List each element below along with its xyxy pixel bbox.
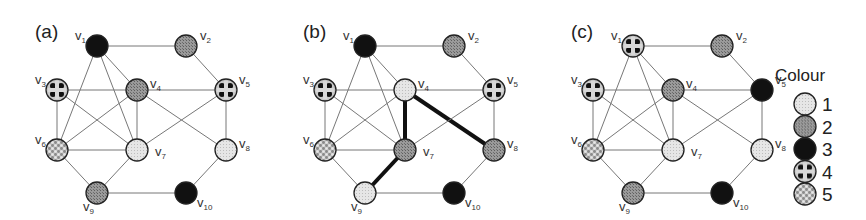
vertex-label: v4 — [418, 76, 430, 93]
vertex-label: v8 — [507, 136, 519, 153]
vertex-label: v5 — [507, 72, 519, 89]
vertex-v7 — [126, 139, 148, 161]
vertex-v4 — [126, 79, 148, 101]
vertex-label: v5 — [239, 72, 251, 89]
vertex-label: v10 — [733, 195, 749, 212]
vertex-label: v2 — [200, 28, 212, 45]
vertex-v7 — [662, 139, 684, 161]
legend-value: 5 — [822, 184, 833, 205]
panel-c: (c)v1v2v3v4v5v6v7v8v9v10 — [571, 21, 787, 216]
edges — [593, 46, 762, 193]
vertex-label: v2 — [736, 28, 748, 45]
vertex-label: v7 — [423, 144, 435, 161]
vertex-v10 — [711, 182, 733, 204]
legend-swatch-4 — [794, 161, 816, 183]
vertex-v1 — [622, 35, 644, 57]
vertex-v2 — [443, 35, 465, 57]
panel-a: (a)v1v2v3v4v5v6v7v8v9v10 — [35, 21, 251, 216]
panel-b: (b)v1v2v3v4v5v6v7v8v9v10 — [303, 21, 519, 216]
vertex-v6 — [314, 139, 336, 161]
vertex-v6 — [46, 139, 68, 161]
vertex-label: v6 — [35, 132, 47, 149]
legend-value: 4 — [822, 162, 833, 183]
vertex-v10 — [443, 182, 465, 204]
legend-value: 3 — [822, 139, 833, 160]
vertex-v3 — [314, 79, 336, 101]
edges — [57, 46, 226, 193]
legend-swatch-5 — [794, 183, 816, 205]
vertex-v5 — [751, 79, 773, 101]
vertex-label: v3 — [571, 72, 583, 89]
legend-value: 2 — [822, 117, 833, 138]
vertex-label: v3 — [303, 72, 315, 89]
panel-label: (c) — [571, 21, 593, 42]
vertex-v5 — [483, 79, 505, 101]
vertex-v6 — [582, 139, 604, 161]
vertex-v4 — [394, 79, 416, 101]
vertex-v8 — [751, 139, 773, 161]
vertex-v8 — [483, 139, 505, 161]
figure-svg: (a)v1v2v3v4v5v6v7v8v9v10(b)v1v2v3v4v5v6v… — [0, 0, 866, 220]
vertex-label: v7 — [691, 144, 703, 161]
vertex-label: v6 — [571, 132, 583, 149]
vertex-label: v1 — [611, 28, 623, 45]
vertex-v4 — [662, 79, 684, 101]
vertex-v5 — [215, 79, 237, 101]
edges — [325, 46, 494, 193]
panel-label: (b) — [303, 21, 326, 42]
vertex-label: v1 — [343, 28, 355, 45]
vertex-label: v3 — [35, 72, 47, 89]
vertex-label: v4 — [150, 76, 162, 93]
vertex-label: v10 — [197, 195, 213, 212]
vertex-v10 — [175, 182, 197, 204]
vertex-label: v4 — [686, 76, 698, 93]
legend-swatch-1 — [794, 93, 816, 115]
vertex-label: v2 — [468, 28, 480, 45]
vertex-v8 — [215, 139, 237, 161]
vertex-label: v8 — [239, 136, 251, 153]
legend-swatch-2 — [794, 116, 816, 138]
vertex-v1 — [86, 35, 108, 57]
vertex-label: v1 — [75, 28, 87, 45]
vertex-label: v7 — [155, 144, 167, 161]
legend-title: Colour — [775, 66, 825, 85]
vertex-label: v8 — [775, 136, 787, 153]
vertex-v2 — [711, 35, 733, 57]
vertex-v2 — [175, 35, 197, 57]
graph-coloring-figure: (a)v1v2v3v4v5v6v7v8v9v10(b)v1v2v3v4v5v6v… — [0, 0, 866, 220]
panel-label: (a) — [35, 21, 58, 42]
vertex-label: v6 — [303, 132, 315, 149]
vertex-v1 — [354, 35, 376, 57]
legend-value: 1 — [822, 94, 833, 115]
vertex-label: v10 — [465, 195, 481, 212]
vertex-v3 — [582, 79, 604, 101]
vertex-v7 — [394, 139, 416, 161]
panels-group: (a)v1v2v3v4v5v6v7v8v9v10(b)v1v2v3v4v5v6v… — [35, 21, 787, 216]
legend-swatch-3 — [794, 138, 816, 160]
vertex-v3 — [46, 79, 68, 101]
